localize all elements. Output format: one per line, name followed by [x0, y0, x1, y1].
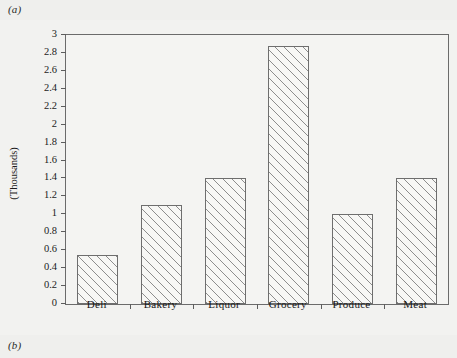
figure-label-a: (a)	[8, 3, 21, 15]
x-label-liquor: Liquor	[192, 298, 256, 310]
bar-produce	[332, 214, 373, 304]
x-label-meat: Meat	[383, 298, 447, 310]
figure-label-b: (b)	[8, 339, 21, 351]
y-tick-label: 2.4	[44, 82, 57, 93]
plot-area: 32.82.62.42.221.81.61.41.210.80.60.40.20	[65, 34, 449, 305]
y-tick-label: 1.8	[44, 136, 57, 147]
y-tick-label: 2.6	[44, 64, 57, 75]
bar-slot	[321, 35, 385, 304]
bar-deli	[77, 255, 118, 304]
y-tick-label: 1.2	[44, 189, 57, 200]
y-tick-label: 0.6	[44, 243, 57, 254]
bar-slot	[193, 35, 257, 304]
y-tick-label: 2.8	[44, 46, 57, 57]
bar-slot	[384, 35, 448, 304]
bar-bakery	[141, 205, 182, 304]
bar-slot	[66, 35, 130, 304]
x-label-deli: Deli	[65, 298, 129, 310]
y-tick-label: 0	[52, 297, 57, 308]
y-tick-label: 1	[52, 207, 57, 218]
y-tick-label: 0.4	[44, 261, 57, 272]
y-tick-label: 1.4	[44, 171, 57, 182]
y-tick-label: 0.2	[44, 279, 57, 290]
bar-meat	[396, 178, 437, 304]
y-tick-label: 1.6	[44, 154, 57, 165]
bar-series	[66, 35, 448, 304]
bar-grocery	[268, 46, 309, 304]
bar-slot	[257, 35, 321, 304]
y-tick-label: 2	[52, 118, 57, 129]
y-tick-label: 3	[52, 28, 57, 39]
x-label-bakery: Bakery	[129, 298, 193, 310]
bar-slot	[130, 35, 194, 304]
y-tick-label: 0.8	[44, 225, 57, 236]
x-label-grocery: Grocery	[256, 298, 320, 310]
y-axis-title: (Thousands)	[8, 119, 19, 229]
bar-chart-figure: (Thousands) 32.82.62.42.221.81.61.41.210…	[0, 20, 457, 335]
bar-liquor	[205, 178, 246, 304]
y-tick-label: 2.2	[44, 100, 57, 111]
x-label-produce: Produce	[320, 298, 384, 310]
